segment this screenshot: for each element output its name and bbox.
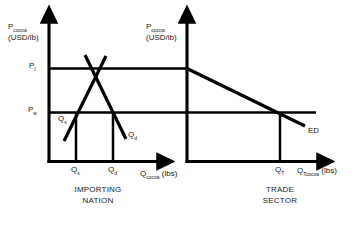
right-panel-title: TRADESECTOR xyxy=(240,185,320,207)
diagram-canvas: Pcocoa (USD/lb) PI Pw Qs Qd Qs Qd Qcocoa… xyxy=(0,0,354,227)
excess-demand-curve xyxy=(187,69,305,127)
left-quantity-label-qs: Qs xyxy=(71,166,80,176)
right-y-axis-label-sub: cocoa xyxy=(151,27,164,33)
left-x-axis-label: Qcocoa (lbs) xyxy=(140,170,177,180)
demand-curve-label: Qd xyxy=(128,131,137,141)
left-y-axis-units: (USD/lb) xyxy=(8,33,39,42)
right-x-axis-label: QTcocoa (lbs) xyxy=(297,167,337,177)
supply-curve-label: Qs xyxy=(58,115,67,125)
left-quantity-label-qd: Qd xyxy=(108,166,117,176)
right-y-axis-label: Pcocoa (USD/lb) xyxy=(146,22,177,44)
left-price-label-pw: Pw xyxy=(28,106,37,116)
left-y-axis-label: Pcocoa (USD/lb) xyxy=(8,22,39,44)
left-panel-title: IMPORTINGNATION xyxy=(50,185,146,207)
left-y-axis-label-sub: cocoa xyxy=(13,27,26,33)
left-price-label-pi: PI xyxy=(29,62,36,72)
right-quantity-label-qt: QT xyxy=(275,166,284,176)
right-y-axis-units: (USD/lb) xyxy=(146,33,177,42)
excess-demand-label: ED xyxy=(308,127,319,135)
